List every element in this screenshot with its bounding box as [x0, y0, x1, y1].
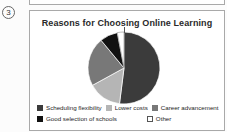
item-number-badge: 3: [2, 6, 15, 19]
legend-swatch-icon: [37, 116, 43, 122]
legend-item: Other: [147, 115, 171, 122]
legend-item: Lower costs: [106, 104, 148, 111]
legend-label: Lower costs: [115, 104, 148, 111]
legend-label: Scheduling flexibility: [46, 104, 102, 111]
legend: Scheduling flexibilityLower costsCareer …: [37, 104, 222, 126]
legend-label: Career advancement: [161, 104, 219, 111]
legend-label: Other: [156, 115, 171, 122]
legend-item: Good selection of schools: [37, 115, 117, 122]
legend-item: Scheduling flexibility: [37, 104, 102, 111]
legend-row-1: Good selection of schoolsOther: [37, 115, 222, 122]
pie-top-tick-icon: [124, 27, 125, 33]
pie-slice-0: [119, 32, 159, 104]
legend-swatch-icon: [37, 105, 43, 111]
legend-swatch-icon: [147, 116, 153, 122]
figure: 3 Reasons for Choosing Online Learning S…: [0, 0, 227, 132]
legend-swatch-icon: [106, 105, 112, 111]
legend-item: Career advancement: [152, 104, 219, 111]
item-number: 3: [6, 8, 10, 17]
legend-row-0: Scheduling flexibilityLower costsCareer …: [37, 104, 222, 111]
pie-chart: [84, 28, 164, 108]
chart-title: Reasons for Choosing Online Learning: [30, 18, 224, 28]
previous-panel-edge: [29, 0, 225, 5]
legend-label: Good selection of schools: [46, 115, 117, 122]
chart-panel: Reasons for Choosing Online Learning Sch…: [29, 10, 225, 131]
legend-swatch-icon: [152, 105, 158, 111]
